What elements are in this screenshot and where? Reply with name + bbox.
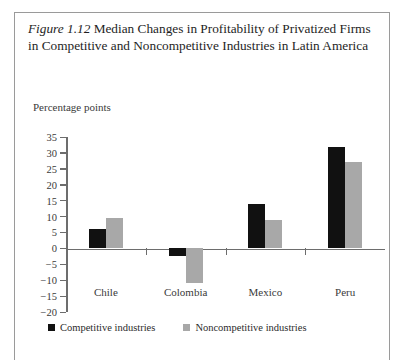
y-tick-label: 35 [47, 132, 58, 143]
y-tick-label: −10 [41, 275, 57, 286]
bar-mexico-competitive [248, 204, 265, 249]
x-axis-separator-tick [226, 248, 227, 255]
y-axis-line [66, 137, 68, 312]
x-category-label: Colombia [164, 286, 207, 298]
legend-label-noncompetitive: Noncompetitive industries [195, 322, 306, 333]
legend-item-competitive: Competitive industries [48, 322, 155, 333]
bar-colombia-noncompetitive [186, 248, 203, 283]
legend-swatch-icon-noncompetitive [183, 324, 190, 331]
bar-colombia-competitive [169, 248, 186, 256]
y-tick-label: −15 [41, 291, 57, 302]
bar-chile-noncompetitive [106, 218, 123, 248]
y-axis-tick-labels: 35302520151050−5−10−15−20 [0, 0, 57, 348]
legend-swatch-icon-competitive [48, 324, 55, 331]
chart-legend: Competitive industries Noncompetitive in… [48, 322, 306, 333]
bar-chile-competitive [89, 229, 106, 248]
y-tick-label: 10 [47, 211, 58, 222]
y-tick-label: −5 [46, 259, 57, 270]
y-tick-label: 5 [52, 227, 57, 238]
y-tick-label: 20 [47, 179, 58, 190]
x-category-label: Chile [94, 286, 118, 298]
bar-mexico-noncompetitive [265, 220, 282, 249]
x-axis-separator-tick [305, 248, 306, 255]
legend-item-noncompetitive: Noncompetitive industries [183, 322, 306, 333]
x-category-label: Peru [335, 286, 355, 298]
bar-peru-noncompetitive [345, 162, 362, 248]
y-tick-label: 15 [47, 195, 58, 206]
y-tick-label: 30 [47, 147, 58, 158]
figure-title: Figure 1.12 Median Changes in Profitabil… [28, 20, 378, 54]
y-tick-label: −20 [41, 307, 57, 318]
x-category-label: Mexico [249, 286, 283, 298]
y-tick-label: 25 [47, 163, 58, 174]
bar-peru-competitive [328, 147, 345, 249]
legend-label-competitive: Competitive industries [60, 322, 155, 333]
y-tick-label: 0 [52, 243, 57, 254]
x-axis-separator-tick [146, 248, 147, 255]
